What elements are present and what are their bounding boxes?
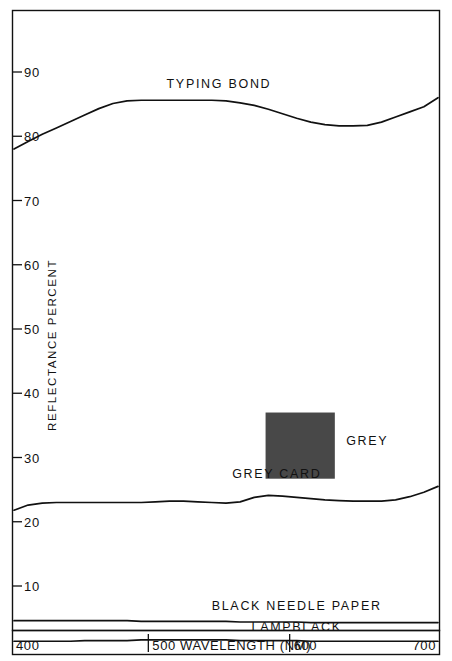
x-label-end: 700: [413, 638, 437, 653]
y-tick-label-70: 70: [24, 194, 40, 209]
series-label-typing-bond: TYPING BOND: [167, 77, 272, 91]
y-tick-label-10: 10: [24, 579, 40, 594]
y-tick-label-20: 20: [24, 515, 40, 530]
y-tick-label-30: 30: [24, 451, 40, 466]
series-label-black-needle-paper: BLACK NEEDLE PAPER: [212, 599, 382, 613]
series-labels: TYPING BONDGREY CARDBLACK NEEDLE PAPERLA…: [167, 77, 382, 634]
y-tick-label-90: 90: [24, 65, 40, 80]
reflectance-chart: 102030405060708090 REFLECTANCE PERCENT G…: [0, 0, 452, 661]
y-tick-label-50: 50: [24, 322, 40, 337]
chart-canvas: 102030405060708090 REFLECTANCE PERCENT G…: [0, 0, 452, 661]
grey-swatch-label: GREY: [346, 434, 388, 448]
curve-typing-bond: [14, 98, 438, 149]
x-label-mid: 500 WAVELENGTH (NM): [152, 638, 311, 653]
curve-black-needle-paper: [14, 621, 438, 623]
series-curves: [14, 98, 438, 642]
series-label-lampblack: LAMPBLACK: [251, 620, 341, 634]
y-tick-label-60: 60: [24, 258, 40, 273]
y-axis-tick-labels: 102030405060708090: [24, 65, 40, 594]
x-label-start: 400: [16, 638, 40, 653]
y-axis-title: REFLECTANCE PERCENT: [46, 259, 58, 431]
plot-frame: [13, 11, 440, 631]
x-label-600: 600: [294, 638, 318, 653]
y-tick-label-40: 40: [24, 386, 40, 401]
curve-grey-card: [14, 486, 438, 510]
series-label-grey-card: GREY CARD: [232, 467, 321, 481]
